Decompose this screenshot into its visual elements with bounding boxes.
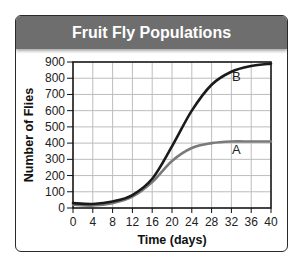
y-tick-label: 700	[45, 87, 65, 101]
x-tick-label: 20	[165, 215, 179, 229]
y-tick-label: 300	[45, 152, 65, 166]
curve-label-b: B	[232, 69, 241, 84]
x-tick-label: 24	[185, 215, 199, 229]
y-tick-label: 0	[58, 201, 65, 215]
x-tick-label: 28	[205, 215, 219, 229]
y-tick-label: 500	[45, 120, 65, 134]
curve-label-a: A	[232, 142, 241, 157]
y-tick-label: 400	[45, 136, 65, 150]
y-tick-label: 100	[45, 185, 65, 199]
x-tick-label: 40	[264, 215, 278, 229]
line-chart: 0100200300400500600700800900048121620242…	[0, 0, 302, 266]
x-tick-label: 32	[225, 215, 239, 229]
x-axis-label: Time (days)	[137, 233, 206, 247]
y-tick-label: 600	[45, 104, 65, 118]
y-tick-label: 900	[45, 55, 65, 69]
y-axis-label: Number of Flies	[22, 88, 36, 183]
x-tick-label: 36	[245, 215, 259, 229]
y-tick-label: 800	[45, 71, 65, 85]
x-tick-label: 8	[109, 215, 116, 229]
y-tick-label: 200	[45, 169, 65, 183]
x-tick-label: 4	[89, 215, 96, 229]
x-tick-label: 16	[146, 215, 160, 229]
x-tick-label: 0	[70, 215, 77, 229]
x-tick-label: 12	[126, 215, 140, 229]
